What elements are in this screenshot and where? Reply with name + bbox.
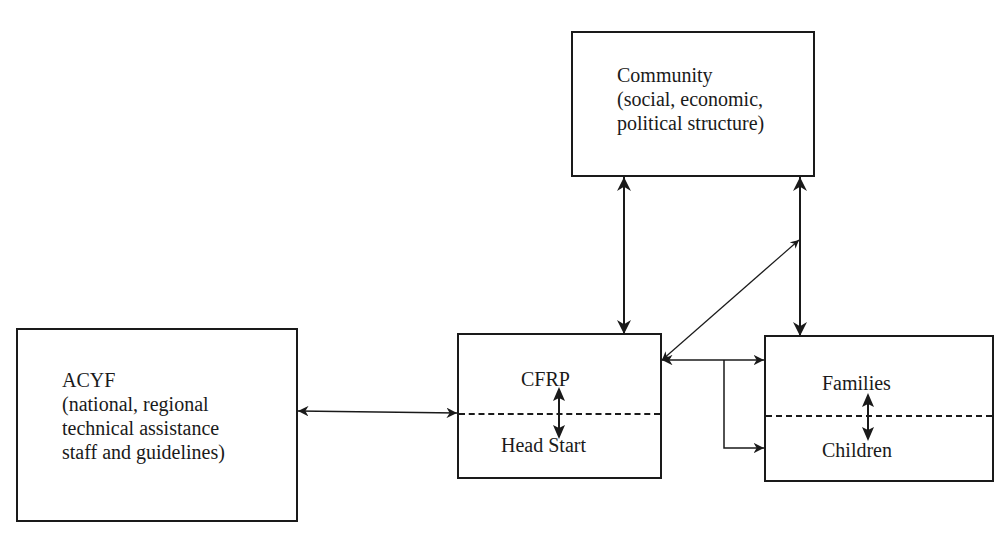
- acyf-desc-line2: technical assistance: [62, 416, 219, 440]
- headstart-label: Head Start: [501, 433, 586, 457]
- community-desc-line1: (social, economic,: [617, 87, 763, 111]
- children-label: Children: [822, 438, 892, 462]
- acyf-desc-line1: (national, regional: [62, 392, 209, 416]
- community-desc-line2: political structure): [617, 111, 764, 135]
- acyf-title: ACYF: [62, 368, 115, 392]
- arrow-cfrp-children: [724, 360, 764, 448]
- families-label: Families: [822, 371, 891, 395]
- acyf-desc-line3: staff and guidelines): [62, 440, 225, 464]
- cfrp-headstart-bidirectional-arrow-icon: [553, 387, 565, 439]
- arrow-acyf-cfrp: [298, 411, 457, 413]
- families-children-bidirectional-arrow-icon: [862, 393, 874, 441]
- community-title: Community: [617, 63, 713, 87]
- cfrp-headstart-node: CFRP Head Start: [457, 333, 662, 479]
- community-node: Community (social, economic, political s…: [571, 31, 815, 177]
- acyf-node: ACYF (national, regional technical assis…: [16, 328, 298, 522]
- families-children-node: Families Children: [764, 335, 994, 482]
- families-children-divider: [766, 415, 992, 417]
